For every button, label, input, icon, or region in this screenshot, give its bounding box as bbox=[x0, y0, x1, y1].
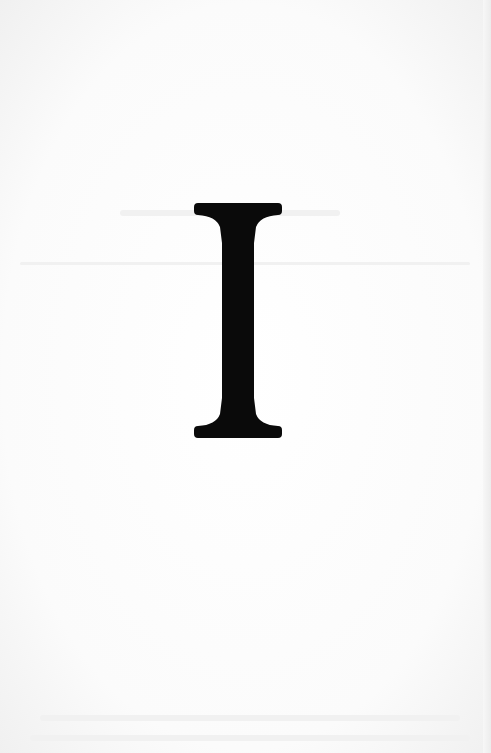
bleed-through-line bbox=[30, 735, 470, 741]
scanned-page bbox=[0, 0, 491, 753]
bleed-through-line bbox=[40, 715, 460, 721]
page-edge-shadow bbox=[483, 0, 491, 753]
large-initial-letter-i bbox=[194, 203, 282, 438]
